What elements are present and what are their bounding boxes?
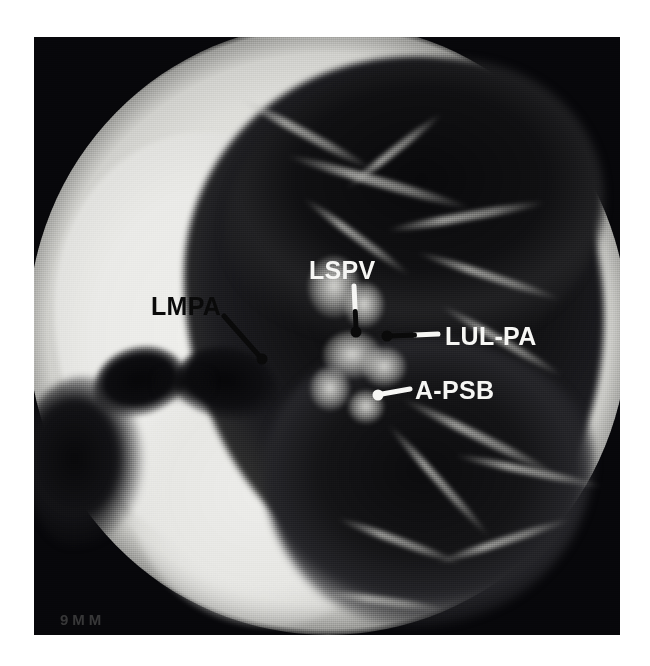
hilar-structure [348, 390, 384, 424]
hilar-structure [344, 282, 384, 328]
vessel-lobe-bridge [154, 369, 214, 403]
hilar-structure [310, 367, 350, 411]
film-legend-text: 9MM [60, 611, 105, 628]
figure-root: LMPALSPVLUL-PAA-PSB 9MM [0, 0, 650, 666]
ct-scan-image: LMPALSPVLUL-PAA-PSB 9MM [34, 37, 620, 635]
hilar-structure [362, 347, 406, 387]
